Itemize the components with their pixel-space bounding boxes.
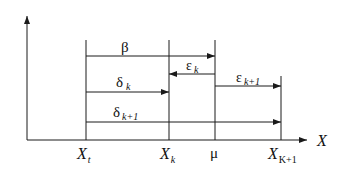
xt-label: Xt — [76, 145, 91, 165]
diagram-canvas: β δk δk+1 εk εk+1 Xt Xk μ XK+1 X — [0, 0, 342, 173]
mu-label: μ — [210, 145, 218, 161]
xk1-label: XK+1 — [267, 145, 297, 165]
xk-label: Xk — [159, 145, 176, 165]
delta-k1-label: δk+1 — [113, 104, 138, 122]
x-axis-label: X — [316, 132, 328, 149]
eps-k-label: εk — [186, 58, 199, 75]
delta-k-label: δk — [116, 74, 131, 92]
eps-k1-label: εk+1 — [236, 70, 260, 87]
beta-label: β — [121, 39, 129, 55]
